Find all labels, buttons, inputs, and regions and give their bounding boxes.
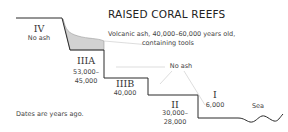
terrace-iiib-label: IIIB [107,79,143,89]
no-ash-label: No ash [166,63,196,70]
terrace-iiia-label: IIIA [69,56,103,66]
terrace-i-label: I [202,90,228,100]
terrace-iiia-detail-2: 45,000 [68,78,104,85]
footnote: Dates are years ago. [16,111,84,118]
terrace-iv-detail: No ash [22,35,56,42]
sea-label: Sea [248,103,268,110]
diagram-title: RAISED CORAL REEFS [108,9,225,20]
terrace-iiib-detail: 40,000 [107,90,143,97]
sea-wave [238,114,283,122]
volcanic-ash-label-line2: containing tools [142,40,194,47]
terrace-ii-detail-1: 30,000– [156,110,194,117]
terrace-iiia-detail-1: 53,000– [68,69,104,76]
terrace-ii-detail-2: 28,000 [156,119,194,126]
no-ash-leader-line-2 [160,71,172,84]
terrace-i-detail: 6,000 [201,102,229,109]
volcanic-ash-label-line1: Volcanic ash, 40,000–60,000 years old, [108,31,235,38]
terrace-iv-label: IV [29,24,49,34]
